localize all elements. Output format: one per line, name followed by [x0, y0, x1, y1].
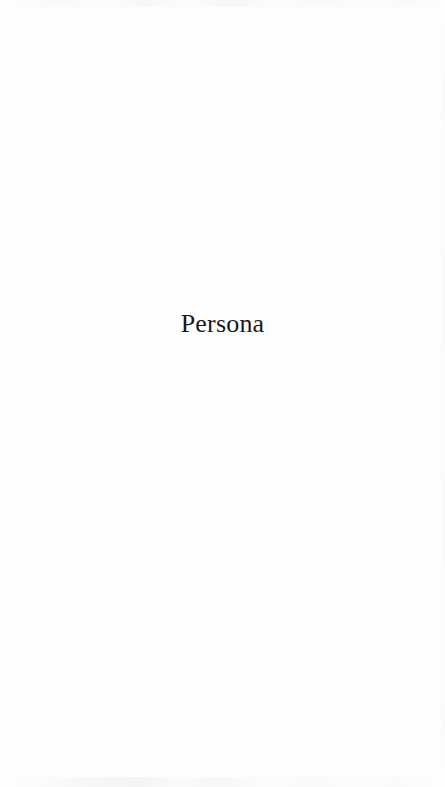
scan-edge-noise-top	[0, 0, 445, 7]
scanned-book-page: Persona	[0, 0, 445, 787]
page-title: Persona	[181, 309, 265, 339]
scan-edge-noise-right	[441, 0, 445, 787]
scan-edge-noise-bottom	[0, 777, 445, 787]
title-block: Persona	[0, 309, 445, 339]
